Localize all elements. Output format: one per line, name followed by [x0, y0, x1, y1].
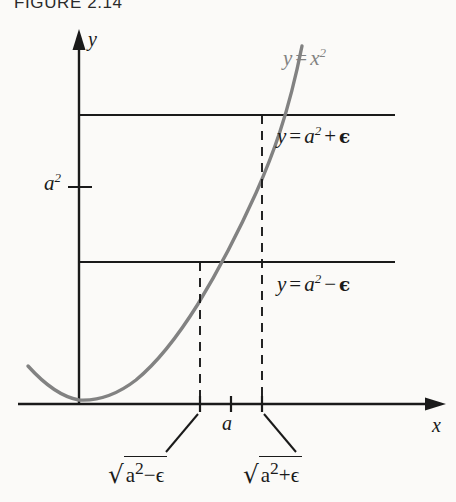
curve-label-exponent: 2 — [320, 45, 327, 60]
sqrt-minus-label: √a2−ϵ — [108, 456, 167, 488]
sqrt-plus-exponent: 2 — [270, 458, 279, 478]
curve-label-equals: = — [292, 46, 310, 70]
y-axis — [73, 29, 86, 404]
upper-label-base: a — [304, 124, 315, 148]
lower-label-operator: − — [321, 272, 339, 296]
lower-label-base: a — [304, 272, 315, 296]
sqrt-plus-label: √a2+ϵ — [243, 456, 302, 488]
lower-label-lhs: y — [277, 272, 286, 296]
sqrt-minus-operator: − — [144, 463, 156, 487]
upper-line-equation-label: y=a2+ϵ — [277, 124, 350, 149]
sqrt-plus-operator: + — [279, 463, 291, 487]
sqrt-minus-radical-icon: √ — [108, 460, 124, 489]
leader-line-sqrt-minus — [166, 414, 198, 452]
x-axis-tick-label-a: a — [222, 412, 232, 435]
parabola-curve — [28, 46, 302, 400]
sqrt-minus-base: a — [126, 463, 135, 487]
upper-label-equals: = — [286, 124, 304, 148]
curve-label-base: x — [310, 46, 319, 70]
sqrt-minus-epsilon: ϵ — [156, 463, 165, 487]
x-axis-label: x — [432, 414, 441, 437]
sqrt-minus-exponent: 2 — [135, 458, 144, 478]
y-axis-label: y — [88, 28, 97, 51]
leader-line-sqrt-plus — [264, 414, 296, 452]
upper-label-operator: + — [321, 124, 339, 148]
x-axis-label-text: x — [432, 414, 441, 436]
y-tick-exponent: 2 — [55, 170, 62, 185]
curve-equation-label: y=x2 — [283, 46, 326, 71]
sqrt-plus-epsilon: ϵ — [291, 463, 300, 487]
y-axis-label-text: y — [88, 28, 97, 50]
y-tick-base: a — [44, 171, 55, 195]
y-axis-tick-label: a2 — [44, 171, 61, 196]
sqrt-plus-radical-icon: √ — [243, 460, 259, 489]
x-tick-a-text: a — [222, 412, 232, 434]
lower-label-epsilon: ϵ — [339, 274, 350, 295]
curve-label-lhs: y — [283, 46, 292, 70]
figure-container: FIGURE 2.14 — [0, 0, 456, 502]
lower-line-equation-label: y=a2−ϵ — [277, 272, 350, 297]
lower-label-equals: = — [286, 272, 304, 296]
upper-label-lhs: y — [277, 124, 286, 148]
sqrt-plus-base: a — [261, 463, 270, 487]
upper-label-epsilon: ϵ — [339, 126, 350, 147]
